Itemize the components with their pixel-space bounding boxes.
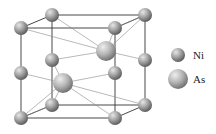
as-atoms — [53, 41, 116, 93]
legend: Ni As — [168, 48, 205, 89]
ni-atom — [138, 8, 152, 22]
ni-atoms — [14, 8, 152, 125]
legend-ni-swatch — [171, 48, 185, 62]
ni-atom — [45, 53, 59, 67]
ni-atom — [45, 98, 59, 112]
ni-atom — [45, 8, 59, 22]
legend-as-label: As — [193, 73, 205, 85]
ni-atom — [14, 111, 28, 125]
as-atom — [96, 41, 116, 61]
ni-atom — [14, 66, 28, 80]
as-atom — [53, 73, 73, 93]
ni-atom — [108, 66, 122, 80]
ni-atom — [108, 111, 122, 125]
ni-atom — [138, 98, 152, 112]
ni-atom — [138, 53, 152, 67]
legend-as-swatch — [168, 69, 188, 89]
ni-atom — [14, 21, 28, 35]
nias-crystal-diagram: Ni As — [0, 0, 216, 134]
ni-atom — [108, 21, 122, 35]
legend-ni-label: Ni — [193, 49, 204, 61]
as-ni-bonds — [21, 15, 145, 118]
